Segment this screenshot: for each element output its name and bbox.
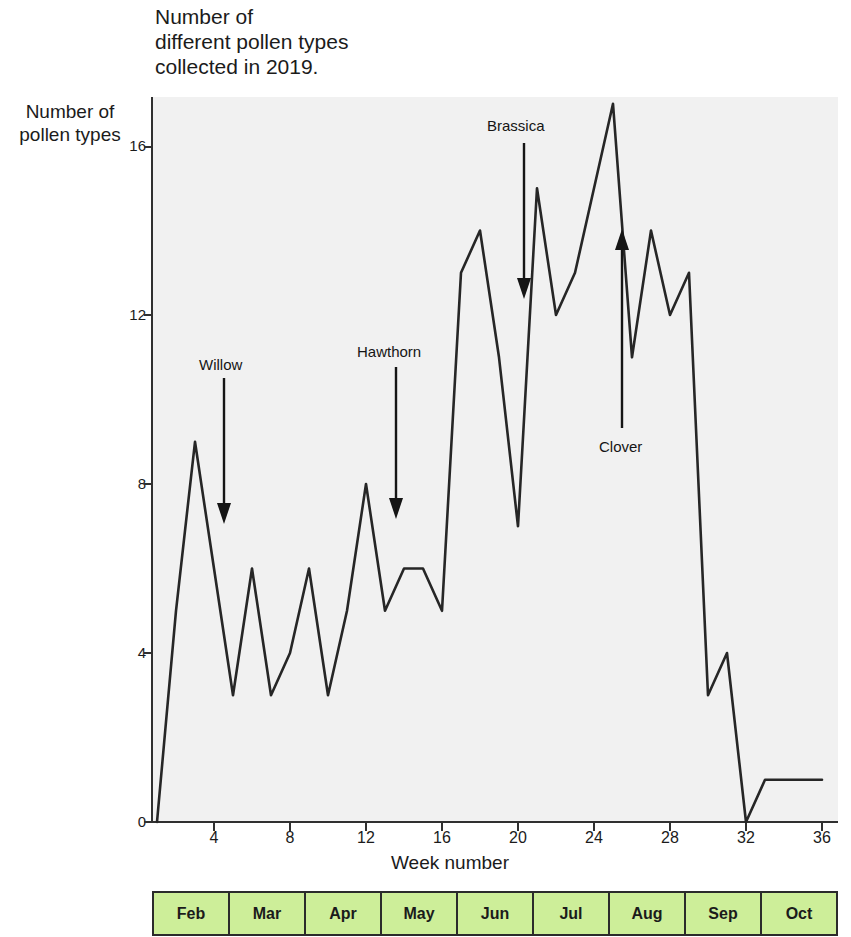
annotation-arrow-hawthorn <box>389 367 403 519</box>
chart-figure: Number of different pollen types collect… <box>0 0 851 937</box>
month-cell-jun: Jun <box>458 893 534 934</box>
month-cell-aug: Aug <box>610 893 686 934</box>
data-series-line <box>157 104 822 822</box>
month-cell-sep: Sep <box>686 893 762 934</box>
x-tick-marks <box>214 822 822 831</box>
annotation-arrow-clover <box>615 229 629 428</box>
annotation-arrow-brassica <box>517 143 531 299</box>
month-cell-apr: Apr <box>306 893 382 934</box>
annotation-arrow-willow <box>217 378 231 524</box>
month-cell-oct: Oct <box>762 893 836 934</box>
month-band: Feb Mar Apr May Jun Jul Aug Sep Oct <box>152 891 838 936</box>
month-cell-jul: Jul <box>534 893 610 934</box>
month-cell-mar: Mar <box>230 893 306 934</box>
month-cell-feb: Feb <box>154 893 230 934</box>
chart-svg <box>0 0 851 937</box>
y-tick-marks <box>144 147 152 822</box>
month-cell-may: May <box>382 893 458 934</box>
